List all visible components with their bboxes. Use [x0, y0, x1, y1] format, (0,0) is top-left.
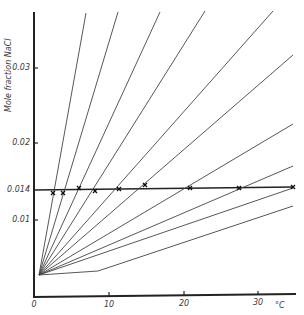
y-tick-label: 0.014: [7, 185, 30, 194]
x-tick-label: 10: [104, 300, 114, 309]
y-axis-label: Mole fraction NaCl: [4, 39, 13, 112]
x-tick-label: 20: [179, 299, 189, 308]
line-4: [39, 11, 205, 275]
x-axis: [33, 294, 296, 297]
line-8: [39, 166, 293, 275]
x-tick-label: 0: [31, 300, 36, 309]
line-1: [39, 13, 86, 275]
line-10: [39, 206, 293, 275]
x-mark-icon: [51, 191, 55, 195]
chart-plot: [0, 0, 304, 315]
y-tick-label: 0.01: [12, 215, 30, 224]
x-tick-label: 30: [253, 298, 263, 307]
y-tick-label: 0.02: [12, 138, 30, 147]
y-tick-label: 0.03: [12, 63, 30, 72]
line-6: [39, 55, 293, 275]
series-lines: [39, 11, 293, 275]
x-axis-unit: °C: [275, 301, 285, 310]
reference-line-0014: [34, 187, 294, 190]
line-3: [39, 12, 160, 275]
